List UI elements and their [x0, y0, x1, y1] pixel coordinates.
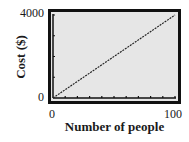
y-tick-label-max: 4000: [14, 6, 44, 21]
y-tick-label-min: 0: [14, 90, 44, 105]
y-axis-label: Cost ($): [13, 35, 29, 79]
cost-line: [53, 15, 175, 98]
x-axis-label: Number of people: [40, 119, 189, 135]
